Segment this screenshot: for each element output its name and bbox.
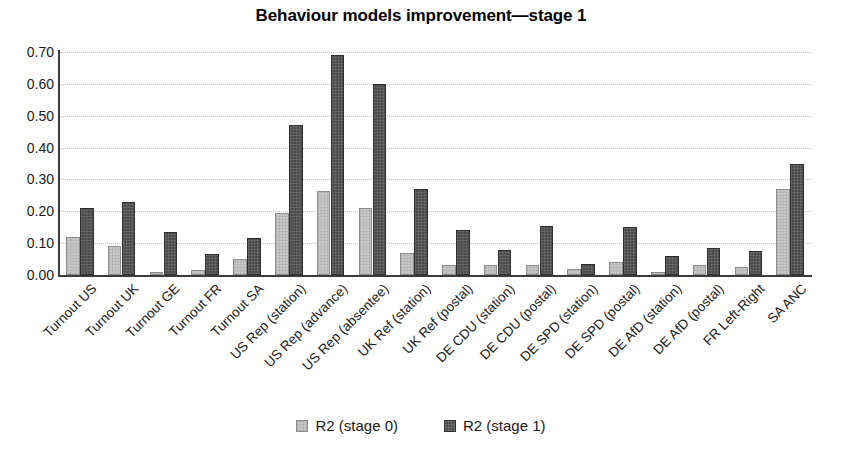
bar [205, 254, 219, 275]
x-axis-tick-label: SA ANC [765, 281, 810, 326]
gridline [60, 84, 812, 86]
bar [581, 264, 595, 275]
bar [331, 55, 345, 275]
bar [693, 265, 707, 275]
y-axis-tick-label: 0.20 [2, 203, 54, 219]
gridline [60, 211, 812, 213]
bar [164, 232, 178, 275]
bar [66, 237, 80, 275]
legend-item[interactable]: R2 (stage 0) [296, 417, 398, 434]
bar [400, 253, 414, 275]
x-axis-tick-label: UK Ref (station) [355, 281, 434, 360]
bar [456, 230, 470, 275]
legend-item[interactable]: R2 (stage 1) [444, 417, 546, 434]
legend-swatch-icon [444, 420, 456, 432]
bar [526, 265, 540, 275]
bar [776, 189, 790, 275]
bar [80, 208, 94, 275]
bar [790, 164, 804, 276]
x-axis-tick-label: DE SPD (postal) [562, 281, 643, 362]
bar [609, 262, 623, 275]
y-axis-tick-label: 0.10 [2, 235, 54, 251]
x-axis-tick-label: DE AfD (station) [605, 281, 684, 360]
bar [317, 191, 331, 275]
legend-label: R2 (stage 1) [463, 417, 546, 434]
bar [707, 248, 721, 275]
bar [275, 213, 289, 275]
bar [191, 270, 205, 275]
bar [665, 256, 679, 275]
bar [442, 265, 456, 275]
bar [373, 84, 387, 275]
bar [749, 251, 763, 275]
chart-title: Behaviour models improvement—stage 1 [0, 6, 842, 26]
gridline [60, 179, 812, 181]
gridline [60, 148, 812, 150]
bar [651, 272, 665, 275]
bar [484, 265, 498, 275]
gridline [60, 116, 812, 118]
y-axis-tick-label: 0.70 [2, 44, 54, 60]
chart-figure: Behaviour models improvement—stage 1 0.0… [0, 0, 842, 462]
bar [289, 125, 303, 275]
chart-legend: R2 (stage 0)R2 (stage 1) [0, 417, 842, 434]
y-axis-tick-label: 0.60 [2, 76, 54, 92]
x-axis-line [58, 275, 812, 277]
bar [498, 250, 512, 275]
x-axis-tick-label: DE SPD (station) [518, 281, 601, 364]
y-axis-tick-label: 0.50 [2, 108, 54, 124]
bar [414, 189, 428, 275]
gridline [60, 52, 812, 54]
bar [247, 238, 261, 275]
legend-swatch-icon [296, 420, 308, 432]
bar [567, 269, 581, 275]
bar [359, 208, 373, 275]
bar [540, 226, 554, 275]
legend-label: R2 (stage 0) [315, 417, 398, 434]
y-axis-tick-label: 0.30 [2, 171, 54, 187]
x-axis-tick-label: DE CDU (postal) [477, 281, 559, 363]
plot-area [60, 52, 812, 275]
bar [233, 259, 247, 275]
y-axis-tick-label: 0.40 [2, 140, 54, 156]
bar [122, 202, 136, 275]
bar [623, 227, 637, 275]
x-axis-tick-label: US Rep (station) [227, 281, 308, 362]
y-axis-tick-label: 0.00 [2, 267, 54, 283]
bar [735, 267, 749, 275]
bar [108, 246, 122, 275]
bar [150, 272, 164, 275]
